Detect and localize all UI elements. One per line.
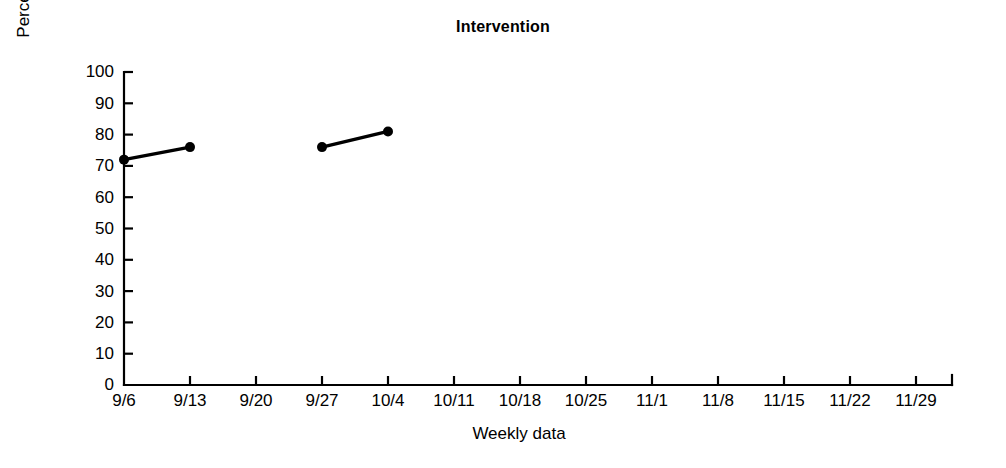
x-tick-label: 10/25 <box>565 391 608 410</box>
data-series <box>119 126 393 164</box>
y-tick-label: 30 <box>95 282 114 301</box>
x-tick-label: 9/20 <box>239 391 272 410</box>
x-tick-label: 10/4 <box>371 391 404 410</box>
y-tick-label: 90 <box>95 94 114 113</box>
x-tick-label: 9/13 <box>173 391 206 410</box>
x-tick-label: 10/11 <box>433 391 474 410</box>
y-tick-label: 10 <box>95 344 114 363</box>
y-axis: 0102030405060708090100 <box>86 62 133 394</box>
y-tick-label: 50 <box>95 219 114 238</box>
x-axis-title: Weekly data <box>124 424 914 444</box>
x-tick-label: 11/22 <box>829 391 870 410</box>
data-point <box>185 142 195 152</box>
x-tick-label: 9/27 <box>305 391 338 410</box>
x-tick-label: 11/1 <box>636 391 668 410</box>
y-tick-label: 40 <box>95 250 114 269</box>
series-segment <box>322 131 388 147</box>
chart-figure: Intervention Percentage of independence … <box>0 0 1006 468</box>
y-tick-label: 60 <box>95 188 114 207</box>
data-point <box>317 142 327 152</box>
x-tick-label: 11/15 <box>763 391 804 410</box>
x-tick-label: 11/29 <box>895 391 936 410</box>
y-tick-label: 80 <box>95 125 114 144</box>
y-tick-group <box>124 72 133 354</box>
plot-area: 0102030405060708090100 9/69/139/209/2710… <box>0 0 1006 468</box>
series-segment <box>124 147 190 160</box>
x-tick-label: 10/18 <box>499 391 542 410</box>
x-tick-label: 11/8 <box>702 391 734 410</box>
y-tick-label: 20 <box>95 313 114 332</box>
x-tick-label: 9/6 <box>112 391 136 410</box>
x-axis: 9/69/139/209/2710/410/1110/1810/2511/111… <box>112 375 952 410</box>
y-tick-label-group: 0102030405060708090100 <box>86 62 114 394</box>
data-point <box>119 155 129 165</box>
x-tick-group <box>190 376 916 385</box>
y-tick-label: 70 <box>95 156 114 175</box>
y-tick-label: 100 <box>86 62 114 81</box>
data-point <box>383 126 393 136</box>
x-tick-label-group: 9/69/139/209/2710/410/1110/1810/2511/111… <box>112 391 936 410</box>
